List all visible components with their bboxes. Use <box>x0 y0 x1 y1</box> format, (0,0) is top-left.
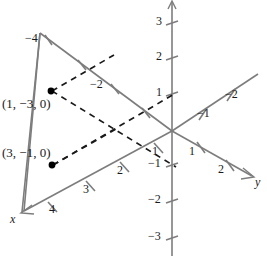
x-tick-label-1: 1 <box>152 145 158 157</box>
axes-svg <box>0 0 267 259</box>
x-tick-neg2 <box>111 84 119 94</box>
y-axis-group <box>172 74 258 179</box>
dash-p1-to-xaxis <box>52 55 114 91</box>
x-axis-name: x <box>10 213 15 225</box>
x-tick-label-neg4: −4 <box>25 32 38 44</box>
x-tick-label-4: 4 <box>49 203 55 215</box>
y-tick-1 <box>197 142 205 153</box>
x-tick-neg4 <box>45 35 52 45</box>
x-axis-line-main <box>24 33 40 211</box>
x-tick-label-3: 3 <box>83 183 89 195</box>
point-dot-1 <box>48 88 55 95</box>
y-tick-label-1: 1 <box>189 145 195 157</box>
coordinate-figure: 3 2 1 −1 −2 −3 1 2 3 4 −2 −4 1 2 −1 −2 x… <box>0 0 267 259</box>
y-axis-line <box>172 131 252 176</box>
point-dot-2 <box>49 162 56 169</box>
x-axis-group <box>21 33 172 214</box>
point-label-1: (1, −3, 0) <box>2 97 51 110</box>
x-tick-neg3 <box>78 60 86 70</box>
y-tick-label-neg2: −2 <box>225 88 238 100</box>
z-tick-label-neg3: −3 <box>148 230 161 242</box>
y-tick-label-2: 2 <box>218 163 224 175</box>
z-tick-label-3: 3 <box>156 15 162 27</box>
x-tick-label-2: 2 <box>117 164 123 176</box>
x-tick-label-neg2: −2 <box>90 78 103 90</box>
z-tick-label-neg2: −2 <box>148 193 161 205</box>
y-axis-name: y <box>255 176 260 188</box>
point-label-2: (3, −1, 0) <box>2 146 51 159</box>
z-tick-label-neg1: −1 <box>148 157 161 169</box>
x-axis-segment <box>40 33 172 131</box>
z-tick-label-2: 2 <box>156 50 162 62</box>
z-tick-label-1: 1 <box>156 86 162 98</box>
y-axis-line-neg <box>172 74 258 131</box>
y-tick-label-neg1: −1 <box>197 107 210 119</box>
